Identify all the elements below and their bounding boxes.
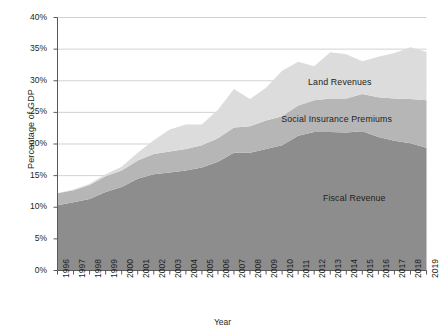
x-tick-label: 2015 — [366, 259, 375, 278]
x-tick-label: 2017 — [398, 259, 407, 278]
y-axis-title: Percentage of GDP — [26, 49, 36, 209]
series-label: Social Insurance Premiums — [281, 114, 392, 124]
x-tick-label: 1999 — [110, 259, 119, 278]
y-tick-label: 35% — [13, 44, 47, 53]
y-tick-label: 40% — [13, 13, 47, 22]
x-tick-label: 2002 — [158, 259, 167, 278]
area-chart: Percentage of GDP Year 0%5%10%15%20%25%3… — [0, 0, 445, 331]
x-tick-label: 2016 — [382, 259, 391, 278]
x-tick-label: 2004 — [190, 259, 199, 278]
y-tick-label: 25% — [13, 107, 47, 116]
y-tick-label: 0% — [13, 266, 47, 275]
y-tick-label: 30% — [13, 76, 47, 85]
x-tick-label: 1996 — [62, 259, 71, 278]
x-tick-label: 2009 — [270, 259, 279, 278]
y-tick-label: 10% — [13, 202, 47, 211]
x-tick-label: 2001 — [142, 259, 151, 278]
x-tick-label: 1998 — [94, 259, 103, 278]
x-tick-label: 2019 — [431, 259, 440, 278]
x-tick-label: 2006 — [222, 259, 231, 278]
x-tick-label: 2008 — [254, 259, 263, 278]
x-axis-title: Year — [0, 317, 445, 327]
series-label: Land Revenues — [308, 77, 372, 87]
y-tick-label: 15% — [13, 171, 47, 180]
x-tick-label: 1997 — [78, 259, 87, 278]
x-tick-label: 2013 — [334, 259, 343, 278]
x-tick-label: 2005 — [206, 259, 215, 278]
x-tick-label: 2011 — [302, 259, 311, 277]
plot-canvas — [0, 0, 445, 331]
x-tick-label: 2014 — [350, 259, 359, 278]
x-tick-label: 2000 — [126, 259, 135, 278]
x-tick-label: 2007 — [238, 259, 247, 278]
x-tick-label: 2018 — [414, 259, 423, 278]
series-label: Fiscal Revenue — [323, 193, 386, 203]
x-tick-label: 2010 — [286, 259, 295, 278]
x-tick-label: 2003 — [174, 259, 183, 278]
x-tick-label: 2012 — [318, 259, 327, 278]
y-tick-label: 20% — [13, 139, 47, 148]
y-tick-label: 5% — [13, 234, 47, 243]
